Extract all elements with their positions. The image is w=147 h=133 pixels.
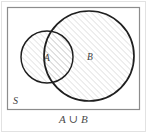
set-b-label: B bbox=[87, 52, 93, 62]
universal-set-label: S bbox=[13, 95, 18, 106]
figure-caption: A ∪ B bbox=[0, 113, 147, 126]
venn-diagram-figure: A B S A ∪ B bbox=[0, 0, 147, 133]
set-a-label: A bbox=[43, 53, 50, 63]
